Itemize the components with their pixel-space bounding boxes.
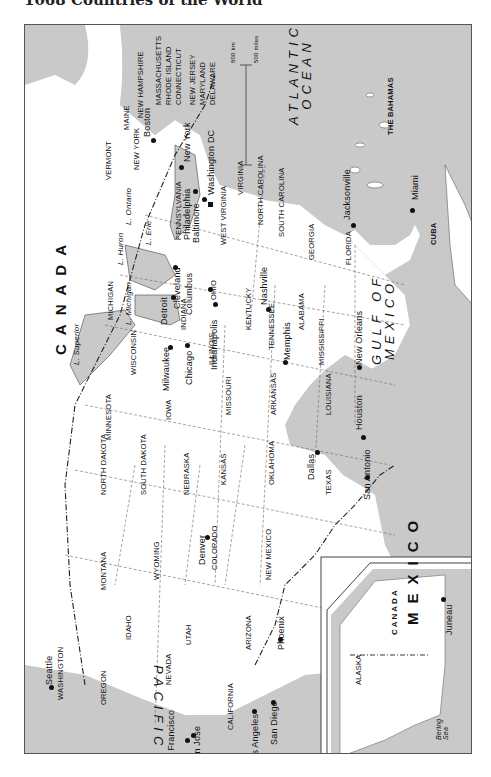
city-dot-juneau — [441, 597, 446, 602]
city-dallas: Dallas — [307, 454, 316, 480]
state-rhode-island: RHODE ISLAND — [165, 46, 173, 105]
city-indianapolis: Indianapolis — [210, 320, 219, 370]
state-washington: WASHINGTON — [57, 647, 65, 700]
city-phoenix: Phoenix — [277, 616, 286, 650]
label-lake-michigan: L. Michigan — [125, 282, 133, 325]
city-seattle: Seattle — [45, 656, 54, 685]
city-dot-chicago — [185, 343, 190, 348]
state-maryland: MARYLAND — [199, 62, 207, 105]
state-iowa: IOWA — [165, 399, 173, 420]
state-georgia: GEORGIA — [308, 224, 316, 260]
state-california: CALIFORNIA — [227, 683, 235, 730]
city-san-francisco: San Francisco — [167, 710, 176, 754]
state-nevada: NEVADA — [165, 654, 173, 686]
label-bering-sea: BeringSea — [435, 719, 449, 740]
city-los-angeles: Los Angeles — [251, 714, 260, 754]
capital-marker-washington-dc — [208, 202, 213, 207]
city-dot-columbus — [208, 287, 213, 292]
inset-canada: CANADA — [391, 588, 399, 635]
city-boston: Boston — [143, 108, 152, 137]
state-kentucky: KENTUCKY — [245, 288, 253, 330]
label-lake-ontario: L. Ontario — [125, 188, 133, 225]
city-san-antonio: San Antonio — [363, 449, 372, 500]
city-juneau: Juneau — [445, 604, 454, 635]
city-new-orleans: New Orleans — [355, 311, 364, 365]
scale-km: 800 km — [230, 42, 236, 63]
state-wyoming: WYOMING — [153, 541, 161, 580]
city-washington-dc: Washington DC — [207, 130, 216, 195]
city-houston: Houston — [355, 395, 364, 430]
city-miami: Miami — [411, 175, 420, 200]
city-cleveland: Cleveland — [173, 267, 182, 309]
label-lake-huron: L. Huron — [117, 233, 125, 265]
scale-miles: 500 miles — [253, 36, 259, 63]
city-dot-new-york — [179, 165, 184, 170]
state-connecticut: CONNECTICUT — [175, 48, 183, 105]
state-alaska: ALASKA — [355, 655, 363, 685]
city-memphis: Memphis — [283, 322, 292, 360]
state-vermont: VERMONT — [105, 141, 113, 180]
label-lake-superior: L. Superior — [73, 324, 81, 365]
state-massachusetts: MASSACHUSETTS — [155, 36, 163, 105]
us-map: CANADA MEXICO CUBA THE BAHAMAS ATLANTICO… — [24, 24, 472, 754]
state-arkansas: ARKANSAS — [270, 373, 278, 415]
city-dot-nashville — [266, 307, 271, 312]
city-chicago: Chicago — [185, 351, 194, 385]
city-dot-miami — [410, 208, 415, 213]
city-baltimore: Baltimore — [192, 203, 201, 243]
city-dot-seattle — [49, 685, 54, 690]
city-nashville: Nashville — [260, 267, 269, 305]
state-south-dakota: SOUTH DAKOTA — [140, 434, 148, 495]
city-columbus: Columbus — [185, 273, 194, 315]
state-mississippi: MISSISSIPPI — [318, 318, 326, 365]
city-dot-detroit — [171, 295, 176, 300]
city-dot-boston — [151, 138, 156, 143]
city-dot-philadelphia — [193, 189, 198, 194]
city-dot-memphis — [283, 360, 288, 365]
state-louisiana: LOUISIANA — [325, 373, 333, 415]
state-texas: TEXAS — [325, 469, 333, 495]
state-oklahoma: OKLAHOMA — [268, 441, 276, 485]
city-dot-indianapolis — [213, 302, 218, 307]
label-canada: CANADA — [53, 236, 68, 355]
city-san-diego: San Diego — [270, 701, 279, 745]
state-north-dakota: NORTH DAKOTA — [100, 434, 108, 495]
state-south-carolina: SOUTH CAROLINA — [278, 168, 286, 237]
state-nebraska: NEBRASKA — [183, 453, 191, 495]
state-oregon: OREGON — [100, 670, 108, 705]
city-san-jose: San Jose — [193, 726, 202, 754]
city-dot-baltimore — [202, 197, 207, 202]
state-kansas: KANSAS — [220, 453, 228, 485]
state-missouri: MISSOURI — [225, 376, 233, 415]
state-west-virginia: WEST VIRGINIA — [220, 186, 228, 245]
state-delaware: DELAWARE — [209, 62, 217, 105]
state-alabama: ALABAMA — [298, 293, 306, 330]
label-mexico: MEXICO — [405, 512, 420, 625]
state-florida: FLORIDA — [345, 231, 353, 265]
state-maine: MAINE — [123, 105, 131, 130]
state-michigan: MICHIGAN — [107, 281, 115, 320]
city-dot-san-francisco — [185, 738, 190, 743]
state-new-mexico: NEW MEXICO — [265, 529, 273, 580]
city-detroit: Detroit — [160, 297, 169, 325]
state-utah: UTAH — [185, 624, 193, 645]
state-new-york: NEW YORK — [133, 128, 141, 170]
city-denver: Denver — [198, 535, 207, 565]
label-cuba: CUBA — [430, 223, 438, 245]
state-idaho: IDAHO — [125, 615, 133, 640]
label-atlantic: ATLANTICOCEAN — [287, 24, 313, 125]
state-colorado: COLORADO — [211, 525, 219, 570]
city-milwaukee: Milwaukee — [162, 347, 171, 391]
label-gulf-of-mexico: GULF OFMEXICO — [370, 274, 396, 365]
city-new-york: New York — [183, 122, 192, 162]
state-new-jersey: NEW JERSEY — [189, 54, 197, 105]
state-wisconsin: WISCONSIN — [130, 330, 138, 375]
city-dot-houston — [361, 435, 366, 440]
state-virginia: VIRGINIA — [237, 160, 245, 195]
state-arizona: ARIZONA — [245, 615, 253, 650]
page-header: 1068 Countries of the World — [24, 0, 262, 9]
state-north-carolina: NORTH CAROLINA — [257, 155, 265, 225]
label-bahamas: THE BAHAMAS — [387, 77, 395, 135]
city-dot-jacksonville — [351, 223, 356, 228]
city-jacksonville: Jacksonville — [343, 169, 352, 220]
